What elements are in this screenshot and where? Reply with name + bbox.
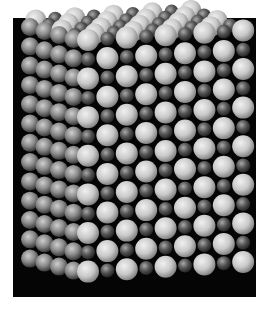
large-ion-sphere xyxy=(116,104,138,126)
small-ion-sphere xyxy=(178,181,192,195)
small-ion-sphere xyxy=(217,140,231,154)
large-ion-sphere xyxy=(116,181,138,203)
large-ion-sphere xyxy=(96,124,118,146)
large-ion-sphere xyxy=(116,27,138,49)
large-ion-sphere xyxy=(232,135,254,157)
large-ion-sphere xyxy=(77,106,99,128)
side-ion-sphere xyxy=(65,165,83,183)
small-ion-sphere xyxy=(139,184,153,198)
large-ion-sphere xyxy=(135,45,157,67)
large-ion-sphere xyxy=(213,156,235,178)
small-ion-sphere xyxy=(81,245,95,259)
large-ion-sphere xyxy=(135,122,157,144)
small-ion-sphere xyxy=(159,48,173,62)
large-ion-sphere xyxy=(193,60,215,82)
large-ion-sphere xyxy=(116,142,138,164)
large-ion-sphere xyxy=(213,194,235,216)
small-ion-sphere xyxy=(236,236,250,250)
side-ion-sphere xyxy=(65,49,83,67)
side-ion-sphere xyxy=(65,127,83,145)
small-ion-sphere xyxy=(178,66,192,80)
small-ion-sphere xyxy=(159,241,173,255)
small-ion-sphere xyxy=(100,263,114,277)
large-ion-sphere xyxy=(213,79,235,101)
small-ion-sphere xyxy=(100,109,114,123)
small-ion-sphere xyxy=(139,222,153,236)
small-ion-sphere xyxy=(139,145,153,159)
small-ion-sphere xyxy=(236,81,250,95)
large-ion-sphere xyxy=(155,179,177,201)
small-ion-sphere xyxy=(120,89,134,103)
large-ion-sphere xyxy=(155,101,177,123)
small-ion-sphere xyxy=(81,207,95,221)
small-ion-sphere xyxy=(197,122,211,136)
small-ion-sphere xyxy=(197,45,211,59)
large-ion-sphere xyxy=(155,256,177,278)
small-ion-sphere xyxy=(217,218,231,232)
large-ion-sphere xyxy=(116,65,138,87)
large-ion-sphere xyxy=(193,215,215,237)
small-ion-sphere xyxy=(81,91,95,105)
small-ion-sphere xyxy=(81,52,95,66)
side-ion-sphere xyxy=(65,204,83,222)
large-ion-sphere xyxy=(135,83,157,105)
large-ion-sphere xyxy=(96,163,118,185)
large-ion-sphere xyxy=(77,145,99,167)
large-ion-sphere xyxy=(77,222,99,244)
large-ion-sphere xyxy=(77,183,99,205)
large-ion-sphere xyxy=(193,22,215,44)
small-ion-sphere xyxy=(178,220,192,234)
small-ion-sphere xyxy=(159,125,173,139)
crystal-lattice-photo xyxy=(0,0,268,314)
large-ion-sphere xyxy=(193,253,215,275)
small-ion-sphere xyxy=(139,261,153,275)
small-ion-sphere xyxy=(159,86,173,100)
small-ion-sphere xyxy=(100,148,114,162)
small-ion-sphere xyxy=(159,202,173,216)
small-ion-sphere xyxy=(197,84,211,98)
large-ion-sphere xyxy=(174,81,196,103)
small-ion-sphere xyxy=(197,238,211,252)
large-ion-sphere xyxy=(174,42,196,64)
large-ion-sphere xyxy=(77,261,99,283)
large-ion-sphere xyxy=(155,24,177,46)
small-ion-sphere xyxy=(217,63,231,77)
large-ion-sphere xyxy=(232,97,254,119)
small-ion-sphere xyxy=(236,43,250,57)
small-ion-sphere xyxy=(100,32,114,46)
small-ion-sphere xyxy=(217,179,231,193)
small-ion-sphere xyxy=(120,127,134,141)
small-ion-sphere xyxy=(217,102,231,116)
small-ion-sphere xyxy=(81,130,95,144)
large-ion-sphere xyxy=(232,174,254,196)
large-ion-sphere xyxy=(232,212,254,234)
large-ion-sphere xyxy=(77,29,99,51)
large-ion-sphere xyxy=(174,158,196,180)
large-ion-sphere xyxy=(96,47,118,69)
small-ion-sphere xyxy=(178,143,192,157)
large-ion-sphere xyxy=(116,220,138,242)
small-ion-sphere xyxy=(159,163,173,177)
large-ion-sphere xyxy=(135,238,157,260)
small-ion-sphere xyxy=(236,159,250,173)
small-ion-sphere xyxy=(236,197,250,211)
small-ion-sphere xyxy=(178,104,192,118)
large-ion-sphere xyxy=(155,63,177,85)
large-ion-sphere xyxy=(135,199,157,221)
small-ion-sphere xyxy=(120,50,134,64)
large-ion-sphere xyxy=(135,161,157,183)
large-ion-sphere xyxy=(155,217,177,239)
small-ion-sphere xyxy=(178,259,192,273)
small-ion-sphere xyxy=(217,256,231,270)
large-ion-sphere xyxy=(232,251,254,273)
large-ion-sphere xyxy=(213,40,235,62)
large-ion-sphere xyxy=(174,197,196,219)
small-ion-sphere xyxy=(100,186,114,200)
small-ion-sphere xyxy=(139,68,153,82)
side-ion-sphere xyxy=(65,88,83,106)
small-ion-sphere xyxy=(120,243,134,257)
large-ion-sphere xyxy=(96,240,118,262)
small-ion-sphere xyxy=(197,200,211,214)
large-ion-sphere xyxy=(213,117,235,139)
small-ion-sphere xyxy=(100,225,114,239)
